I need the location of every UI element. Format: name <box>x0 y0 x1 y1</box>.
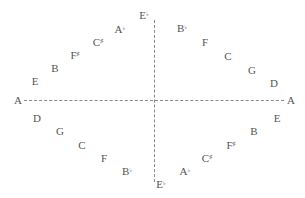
note-label-cs-tl: C♯ <box>93 37 103 48</box>
note-letter: E <box>32 75 39 87</box>
note-label-bb-tr: B♭ <box>177 23 187 34</box>
note-letter: D <box>33 112 41 124</box>
note-label-fs-br: F♯ <box>226 140 235 151</box>
flat-accidental: ♭ <box>123 25 126 31</box>
flat-accidental: ♭ <box>129 167 132 173</box>
note-letter: G <box>248 64 256 76</box>
vertical-dashed-axis <box>154 20 155 182</box>
note-label-ab-tl: A♭ <box>115 24 126 35</box>
note-letter: C <box>78 139 85 151</box>
note-letter: E <box>274 112 281 124</box>
note-letter: B <box>250 125 257 137</box>
note-label-e-tl: E <box>32 76 39 87</box>
note-label-f-tr: F <box>202 37 208 48</box>
note-letter: B <box>51 62 58 74</box>
flat-accidental: ♭ <box>188 167 191 173</box>
note-letter: C <box>224 50 231 62</box>
sharp-accidental: ♯ <box>233 141 236 147</box>
sharp-accidental: ♯ <box>77 51 80 57</box>
note-letter: F <box>101 152 107 164</box>
note-label-ab-br: A♭ <box>180 166 191 177</box>
note-label-g-tr: G <box>248 65 256 76</box>
sharp-accidental: ♯ <box>209 154 212 160</box>
sharp-accidental: ♯ <box>100 38 103 44</box>
note-letter: A <box>287 94 295 106</box>
note-label-b-br: B <box>250 126 257 137</box>
note-label-g-bl: G <box>56 126 64 137</box>
note-label-eb-bottom: E♭ <box>156 179 166 190</box>
note-label-cs-br: C♯ <box>202 153 212 164</box>
note-label-f-bl: F <box>101 153 107 164</box>
note-letter: E <box>139 9 146 21</box>
note-label-c-tr: C <box>224 51 231 62</box>
note-label-c-bl: C <box>78 140 85 151</box>
note-label-b-tl: B <box>51 63 58 74</box>
note-letter: E <box>156 178 163 190</box>
note-label-d-tr: D <box>270 78 278 89</box>
flat-accidental: ♭ <box>163 180 166 186</box>
note-label-a-right: A <box>287 95 295 106</box>
note-label-fs-tl: F♯ <box>70 50 79 61</box>
note-letter: A <box>115 23 123 35</box>
note-label-eb-top: E♭ <box>139 10 149 21</box>
note-label-d-bl: D <box>33 113 41 124</box>
note-letter: D <box>270 77 278 89</box>
flat-accidental: ♭ <box>146 11 149 17</box>
note-label-bb-bl: B♭ <box>122 166 132 177</box>
note-label-a-left: A <box>14 95 22 106</box>
note-letter: G <box>56 125 64 137</box>
note-label-e-br: E <box>274 113 281 124</box>
note-letter: F <box>202 36 208 48</box>
note-letter: A <box>14 94 22 106</box>
note-letter: A <box>180 165 188 177</box>
flat-accidental: ♭ <box>184 24 187 30</box>
